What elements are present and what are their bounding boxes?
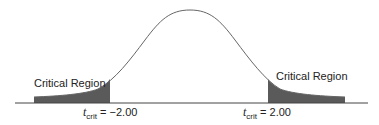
- distribution-curve-graphic: [0, 0, 379, 125]
- right-tcrit-value: = 2.00: [260, 106, 291, 118]
- right-tcrit-label: tcrit = 2.00: [243, 105, 291, 121]
- left-region-label: Critical Region: [34, 77, 106, 89]
- crit-subscript: crit: [86, 112, 97, 121]
- t-distribution-diagram: Critical Region Critical Region tcrit = …: [0, 0, 379, 125]
- left-tcrit-value: = −2.00: [100, 106, 137, 118]
- right-region-label: Critical Region: [276, 70, 348, 82]
- crit-subscript: crit: [246, 112, 257, 121]
- left-tcrit-label: tcrit = −2.00: [83, 105, 137, 121]
- right-critical-shade: [268, 79, 345, 103]
